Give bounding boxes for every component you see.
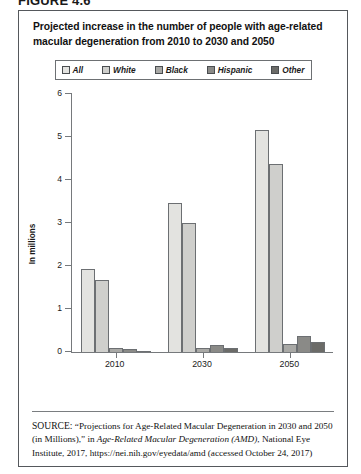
y-axis-tick-label: 3 (57, 217, 62, 227)
y-axis-tick-label: 5 (57, 131, 62, 141)
y-axis-tick: 6 (65, 93, 72, 94)
plot-area: In millions 0123456 201020302050 (19, 94, 347, 394)
y-axis-tick: 3 (65, 222, 72, 223)
legend-swatch-all (62, 66, 70, 74)
legend-item-black[interactable]: Black (155, 65, 188, 75)
bar-2030-hispanic[interactable] (210, 345, 224, 352)
legend-label: Other (282, 65, 304, 75)
bar-2050-hispanic[interactable] (297, 336, 311, 352)
y-axis-tick-label: 2 (57, 260, 62, 270)
chart-title: Projected increase in the number of peop… (33, 20, 333, 49)
legend-swatch-white (102, 66, 110, 74)
bar-2010-white[interactable] (95, 280, 109, 352)
x-axis-label-2010: 2010 (71, 359, 158, 369)
y-axis-tick-label: 0 (57, 346, 62, 356)
legend-item-hispanic[interactable]: Hispanic (207, 65, 253, 75)
bar-2050-black[interactable] (283, 344, 297, 353)
bar-group-2010 (72, 94, 159, 352)
legend-label: Hispanic (218, 65, 253, 75)
legend-label: Black (166, 65, 188, 75)
bar-group-2030 (159, 94, 246, 352)
y-axis-tick: 2 (65, 265, 72, 266)
legend-swatch-other (271, 66, 279, 74)
bar-2010-hispanic[interactable] (123, 349, 137, 352)
legend-item-all[interactable]: All (62, 65, 84, 75)
legend-item-other[interactable]: Other (271, 65, 304, 75)
legend-label: All (73, 65, 84, 75)
x-axis-label-2050: 2050 (246, 359, 333, 369)
y-axis-tick: 0 (65, 351, 72, 352)
axes: 0123456 (71, 94, 333, 353)
figure-frame: Projected increase in the number of peop… (18, 10, 348, 467)
source-text-italic: Age-Related Macular Degeneration (AMD) (97, 434, 257, 444)
bar-groups (72, 94, 333, 352)
bar-2010-all[interactable] (81, 269, 95, 352)
x-axis-tick (116, 352, 117, 358)
y-axis-tick-label: 6 (57, 88, 62, 98)
x-axis-tick (290, 352, 291, 358)
legend-swatch-hispanic (207, 66, 215, 74)
bar-group-2050 (246, 94, 333, 352)
bar-2030-white[interactable] (182, 223, 196, 352)
x-axis-label-2030: 2030 (158, 359, 245, 369)
y-axis-tick-label: 4 (57, 174, 62, 184)
bar-2010-other[interactable] (137, 351, 151, 353)
chart-legend: AllWhiteBlackHispanicOther (55, 60, 312, 80)
legend-swatch-black (155, 66, 163, 74)
y-axis-label-holder: In millions (41, 94, 55, 354)
y-axis-tick-label: 1 (57, 303, 62, 313)
legend-label: White (113, 65, 136, 75)
bar-2050-all[interactable] (255, 130, 269, 352)
source-keyword: SOURCE: (32, 420, 73, 431)
y-axis-tick: 5 (65, 136, 72, 137)
y-axis-tick: 1 (65, 308, 72, 309)
bar-2030-other[interactable] (224, 348, 238, 353)
y-axis-tick: 4 (65, 179, 72, 180)
x-axis-labels: 201020302050 (71, 359, 333, 369)
bar-2050-white[interactable] (269, 164, 283, 352)
source-note: SOURCE: “Projections for Age-Related Mac… (32, 411, 334, 460)
x-axis-tick (203, 352, 204, 358)
bar-2050-other[interactable] (311, 342, 325, 352)
figure-label: FIGURE 4.6 (18, 0, 91, 8)
bar-2030-all[interactable] (168, 203, 182, 353)
y-axis-label: In millions (28, 224, 37, 265)
legend-item-white[interactable]: White (102, 65, 136, 75)
